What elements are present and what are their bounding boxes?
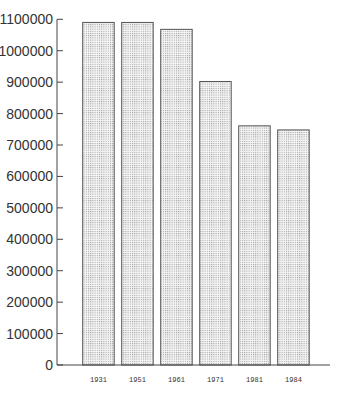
bar-1971 (200, 82, 232, 365)
x-tick-label: 1961 (168, 376, 185, 384)
x-axis: 193119511961197119811984 (57, 365, 330, 384)
x-tick-label: 1984 (285, 376, 302, 384)
y-axis: 0100000200000300000400000500000600000700… (0, 11, 63, 373)
bar-1931 (83, 22, 115, 365)
x-tick-label: 1981 (246, 376, 263, 384)
y-tick-label: 400000 (6, 231, 53, 247)
y-tick-label: 800000 (6, 106, 53, 122)
x-tick-label: 1951 (129, 376, 146, 384)
x-tick-label: 1971 (207, 376, 224, 384)
y-tick-label: 0 (45, 357, 53, 373)
y-tick-label: 200000 (6, 294, 53, 310)
bar-1961 (161, 29, 193, 365)
x-tick-label: 1931 (90, 376, 107, 384)
bar-1951 (122, 22, 154, 365)
bar-1984 (278, 130, 310, 365)
y-tick-label: 600000 (6, 168, 53, 184)
y-tick-label: 500000 (6, 200, 53, 216)
bar-1981 (239, 126, 271, 365)
y-tick-label: 1000000 (0, 43, 53, 59)
y-tick-label: 100000 (6, 326, 53, 342)
y-tick-label: 300000 (6, 263, 53, 279)
y-tick-label: 1100000 (0, 11, 53, 27)
bar-chart: 0100000200000300000400000500000600000700… (0, 0, 344, 394)
bars (83, 22, 310, 365)
y-tick-label: 700000 (6, 137, 53, 153)
y-tick-label: 900000 (6, 74, 53, 90)
